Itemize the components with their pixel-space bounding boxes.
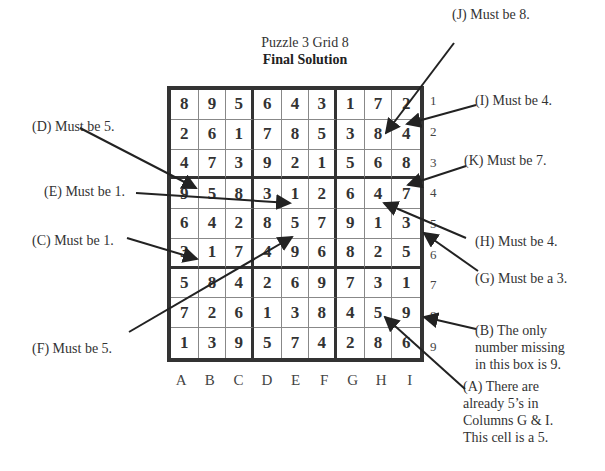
grid-cell-C9: 9 (226, 328, 254, 358)
annotation-b-line-1: (B) The only (475, 322, 565, 339)
annotation-f: (F) Must be 5. (32, 340, 112, 357)
grid-cell-F4: 2 (309, 179, 337, 209)
grid-cell-I2: 4 (392, 120, 420, 150)
grid-cell-D5: 8 (254, 209, 282, 239)
grid-cell-A2: 2 (171, 120, 199, 150)
column-label: F (310, 372, 339, 389)
grid-cell-E4: 1 (282, 179, 310, 209)
grid-cell-D9: 5 (254, 328, 282, 358)
grid-cell-D3: 9 (254, 150, 282, 180)
grid-cell-I4: 7 (392, 179, 420, 209)
grid-cell-H5: 1 (365, 209, 393, 239)
grid-cell-D8: 1 (254, 298, 282, 328)
annotation-h: (H) Must be 4. (475, 233, 557, 250)
title-puzzle-grid: Puzzle 3 Grid 8 (230, 34, 380, 51)
row-label: 3 (430, 147, 444, 178)
grid-cell-E3: 2 (282, 150, 310, 180)
title-final-solution: Final Solution (230, 51, 380, 68)
grid-cell-D1: 6 (254, 90, 282, 120)
grid-cell-E9: 7 (282, 328, 310, 358)
row-label: 5 (430, 209, 444, 240)
grid-cell-I3: 8 (392, 150, 420, 180)
grid-cell-E2: 8 (282, 120, 310, 150)
row-label: 2 (430, 117, 444, 148)
grid-cell-C8: 6 (226, 298, 254, 328)
annotation-j: (J) Must be 8. (452, 6, 530, 23)
annotation-k: (K) Must be 7. (464, 152, 546, 169)
grid-cell-G1: 1 (337, 90, 365, 120)
grid-cell-G8: 4 (337, 298, 365, 328)
grid-cell-B1: 9 (199, 90, 227, 120)
grid-cell-D4: 3 (254, 179, 282, 209)
grid-cell-H2: 8 (365, 120, 393, 150)
grid-cell-I7: 1 (392, 269, 420, 299)
column-label: I (396, 372, 425, 389)
grid-cell-B7: 8 (199, 269, 227, 299)
grid-cell-E8: 3 (282, 298, 310, 328)
grid-cell-F3: 1 (309, 150, 337, 180)
grid-cell-B3: 7 (199, 150, 227, 180)
row-label: 8 (430, 301, 444, 332)
annotation-a-line-3: Columns G & I. (463, 412, 553, 429)
grid-cell-F7: 9 (309, 269, 337, 299)
annotation-g: (G) Must be a 3. (475, 270, 567, 287)
grid-cell-G4: 6 (337, 179, 365, 209)
grid-cell-B8: 2 (199, 298, 227, 328)
grid-cell-E5: 5 (282, 209, 310, 239)
grid-cell-C5: 2 (226, 209, 254, 239)
grid-cell-F8: 8 (309, 298, 337, 328)
grid-cell-C2: 1 (226, 120, 254, 150)
annotation-b-line-3: in this box is 9. (475, 356, 565, 373)
row-label: 6 (430, 239, 444, 270)
grid-cell-H6: 2 (365, 239, 393, 269)
grid-cell-A4: 9 (171, 179, 199, 209)
grid-cell-G5: 9 (337, 209, 365, 239)
grid-cell-A7: 5 (171, 269, 199, 299)
grid-cell-B6: 1 (199, 239, 227, 269)
grid-cell-F9: 4 (309, 328, 337, 358)
grid-cell-E6: 9 (282, 239, 310, 269)
grid-cell-I5: 3 (392, 209, 420, 239)
annotation-a-line-1: (A) There are (463, 378, 553, 395)
grid-cell-B2: 6 (199, 120, 227, 150)
column-labels: ABCDEFGHI (167, 372, 424, 389)
column-label: A (167, 372, 196, 389)
grid-cell-G7: 7 (337, 269, 365, 299)
row-label: 7 (430, 270, 444, 301)
annotation-b-line-2: number missing (475, 339, 565, 356)
grid-cell-H8: 5 (365, 298, 393, 328)
grid-cell-G3: 5 (337, 150, 365, 180)
grid-cell-H4: 4 (365, 179, 393, 209)
grid-cell-D2: 7 (254, 120, 282, 150)
grid-cell-H7: 3 (365, 269, 393, 299)
grid-cell-A9: 1 (171, 328, 199, 358)
grid-cell-H9: 8 (365, 328, 393, 358)
grid-cell-B9: 3 (199, 328, 227, 358)
grid-cell-I9: 6 (392, 328, 420, 358)
grid-cell-A1: 8 (171, 90, 199, 120)
column-label: H (367, 372, 396, 389)
annotation-c: (C) Must be 1. (32, 232, 114, 249)
grid-cell-A5: 6 (171, 209, 199, 239)
grid-cell-A8: 7 (171, 298, 199, 328)
grid-cell-F5: 7 (309, 209, 337, 239)
annotation-i: (I) Must be 4. (475, 92, 552, 109)
grid-cell-G9: 2 (337, 328, 365, 358)
diagram-title: Puzzle 3 Grid 8 Final Solution (230, 34, 380, 68)
column-label: D (253, 372, 282, 389)
grid-cell-G2: 3 (337, 120, 365, 150)
grid-cell-E1: 4 (282, 90, 310, 120)
row-label: 1 (430, 86, 444, 117)
annotation-e: (E) Must be 1. (44, 183, 125, 200)
annotation-d: (D) Must be 5. (32, 118, 114, 135)
column-label: G (338, 372, 367, 389)
grid-cell-F2: 5 (309, 120, 337, 150)
grid-cell-C7: 4 (226, 269, 254, 299)
grid-cell-E7: 6 (282, 269, 310, 299)
grid-cell-A6: 3 (171, 239, 199, 269)
sudoku-grid: 8956431722617853844739215689583126476428… (167, 86, 424, 362)
annotation-a-line-4: This cell is a 5. (463, 429, 553, 446)
grid-cell-C4: 8 (226, 179, 254, 209)
grid-cell-H3: 6 (365, 150, 393, 180)
grid-cell-B5: 4 (199, 209, 227, 239)
